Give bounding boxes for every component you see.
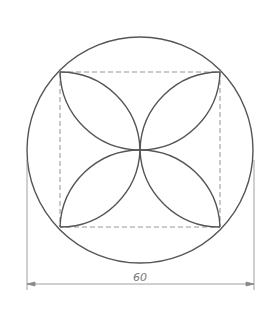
- arc-tl-upper: [60, 72, 140, 150]
- arrow-right-icon: [246, 282, 254, 286]
- arc-tr-lower: [140, 72, 220, 150]
- dimension-label: 60: [133, 271, 147, 284]
- technical-drawing: 60: [0, 0, 276, 311]
- arrow-left-icon: [27, 282, 35, 286]
- arc-tl-lower: [60, 72, 140, 150]
- petal-arcs: [60, 72, 220, 227]
- arc-tr-upper: [140, 72, 220, 150]
